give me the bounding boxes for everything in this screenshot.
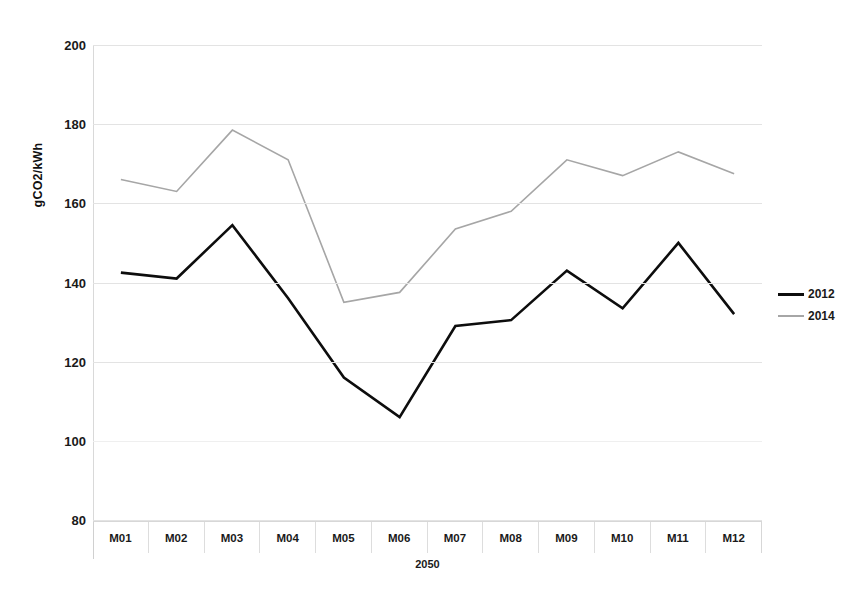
x-axis-label-M10: M10 (595, 522, 651, 553)
x-axis-label-M01: M01 (93, 522, 149, 553)
y-axis-tick-120: 120 (40, 354, 86, 369)
x-axis-label-band: M01M02M03M04M05M06M07M08M09M10M11M12 (93, 521, 762, 553)
x-axis-label-M11: M11 (651, 522, 707, 553)
y-axis-tick-160: 160 (40, 196, 86, 211)
gridline-160 (93, 203, 762, 204)
x-axis-title: 2050 (93, 558, 762, 570)
x-axis-label-M12: M12 (706, 522, 762, 553)
chart-legend: 20122014 (778, 283, 858, 327)
x-axis-label-M02: M02 (149, 522, 205, 553)
legend-line-swatch-2012 (778, 293, 804, 296)
series-line-2012 (121, 225, 734, 417)
gridline-100 (93, 441, 762, 442)
gridline-180 (93, 124, 762, 125)
gridline-200 (93, 45, 762, 46)
x-axis-label-M07: M07 (428, 522, 484, 553)
y-axis-tick-180: 180 (40, 117, 86, 132)
x-axis-label-M08: M08 (483, 522, 539, 553)
y-axis-tick-140: 140 (40, 275, 86, 290)
y-axis-tick-labels: 20018016014012010080 (38, 0, 86, 604)
x-axis-label-M05: M05 (316, 522, 372, 553)
x-axis-label-M03: M03 (205, 522, 261, 553)
plot-area (93, 45, 762, 520)
gridline-120 (93, 362, 762, 363)
legend-line-swatch-2014 (778, 315, 804, 317)
legend-label-2014: 2014 (808, 309, 835, 323)
y-axis-tick-100: 100 (40, 433, 86, 448)
series-line-2014 (121, 130, 734, 302)
legend-item-2012[interactable]: 2012 (778, 283, 858, 305)
line-chart: gCO2/kWh 20018016014012010080 M01M02M03M… (0, 0, 861, 604)
legend-item-2014[interactable]: 2014 (778, 305, 858, 327)
y-axis-tick-200: 200 (40, 38, 86, 53)
x-axis-label-M06: M06 (372, 522, 428, 553)
legend-label-2012: 2012 (808, 287, 835, 301)
gridline-140 (93, 283, 762, 284)
y-axis-tick-80: 80 (40, 513, 86, 528)
x-axis-label-M04: M04 (260, 522, 316, 553)
x-axis-label-M09: M09 (539, 522, 595, 553)
